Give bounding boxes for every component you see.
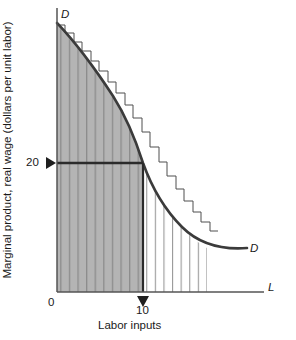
- chart-plot-area: [0, 0, 296, 340]
- y-axis-title: Marginal product, real wage (dollars per…: [2, 0, 20, 300]
- shaded-region: [57, 20, 143, 292]
- x-axis-symbol-label: L: [268, 282, 274, 294]
- y-tick-label-20: 20: [26, 157, 39, 169]
- x-axis-title: Labor inputs: [98, 320, 161, 332]
- curve-label-start: D: [61, 9, 69, 21]
- y-tick-marker-20: [46, 157, 56, 169]
- curve-label-end: D: [250, 243, 258, 255]
- origin-label: 0: [48, 297, 54, 309]
- x-tick-label-10: 10: [136, 305, 149, 317]
- chart-figure: Marginal product, real wage (dollars per…: [0, 0, 296, 340]
